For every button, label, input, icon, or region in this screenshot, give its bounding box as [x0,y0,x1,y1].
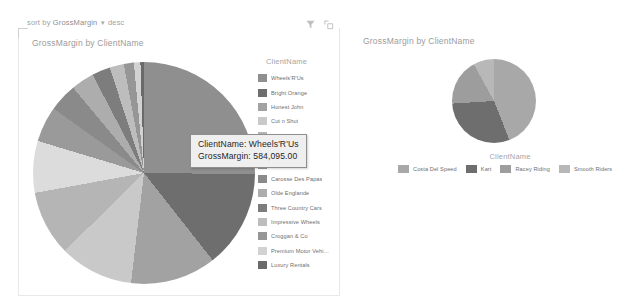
right-pie-chart[interactable] [452,59,536,143]
legend-item-label: Cut n Shut [271,118,298,124]
legend-item-label: Three Country Cars [271,205,322,211]
tooltip-gross-margin: GrossMargin: 584,095.00 [198,151,299,163]
legend-item-label: Bright Orange [271,90,307,96]
legend-color-swatch [258,74,267,82]
left-pie-chart[interactable] [33,62,255,284]
legend-item-label: Racey Riding [515,166,549,172]
legend-item-label: Olde Englande [271,190,309,196]
legend-item-label: Croggan & Co [271,233,308,239]
legend-item[interactable]: Kart [466,165,492,173]
right-chart-legend[interactable]: ClientName Costa Del SpeedKartRacey Ridi… [398,152,622,173]
filter-icon[interactable] [305,16,316,27]
legend-item[interactable]: Olde Englande [258,186,330,200]
legend-item[interactable]: Luxury Rentals [258,258,330,272]
legend-item-label: Wheels'R'Us [271,75,304,81]
focus-mode-icon[interactable] [323,16,334,27]
legend-color-swatch [258,232,267,240]
sort-field-name[interactable]: GrossMargin [53,18,98,27]
legend-item-label: Smooth Riders [574,166,612,172]
legend-color-swatch [398,165,409,173]
left-chart-panel-corner [18,28,28,38]
sort-by-label: sort by [27,18,51,27]
legend-color-swatch [258,247,267,255]
legend-color-swatch [258,189,267,197]
legend-color-swatch [258,103,267,111]
sort-direction-arrow-icon[interactable]: ▾ [100,19,106,26]
right-legend-title: ClientName [398,152,622,161]
legend-color-swatch [258,175,267,183]
legend-item[interactable]: Honest John [258,100,330,114]
legend-color-swatch [500,165,511,173]
sort-direction-label[interactable]: desc [108,18,124,27]
legend-item[interactable]: Three Country Cars [258,201,330,215]
chart-tooltip: ClientName: Wheels'R'Us GrossMargin: 584… [190,134,307,168]
legend-color-swatch [258,204,267,212]
legend-item[interactable]: Croggan & Co [258,229,330,243]
legend-color-swatch [258,117,267,125]
left-legend-title: ClientName [266,57,330,66]
legend-item[interactable]: Racey Riding [500,165,549,173]
legend-item[interactable]: Wheels'R'Us [258,71,330,85]
legend-item[interactable]: Bright Orange [258,85,330,99]
legend-item-label: Kart [481,166,492,172]
legend-color-swatch [258,261,267,269]
legend-item[interactable]: Carosse Des Papas [258,172,330,186]
legend-item-label: Luxury Rentals [271,262,310,268]
tooltip-client-name: ClientName: Wheels'R'Us [198,139,299,151]
legend-item-label: Carosse Des Papas [271,176,322,182]
sort-bar[interactable]: sort by GrossMargin ▾ desc [27,18,124,27]
legend-color-swatch [258,218,267,226]
legend-item[interactable]: Premium Motor Vehi… [258,244,330,258]
legend-item-label: Honest John [271,104,304,110]
legend-item-label: Impressive Wheels [271,219,320,225]
left-chart-title: GrossMargin by ClientName [32,38,144,48]
visual-toolbar[interactable] [305,16,334,27]
legend-color-swatch [466,165,477,173]
legend-item[interactable]: Costa Del Speed [398,165,457,173]
legend-item[interactable]: Smooth Riders [559,165,612,173]
legend-item[interactable]: Cut n Shut [258,114,330,128]
legend-item[interactable]: Impressive Wheels [258,215,330,229]
legend-item-label: Costa Del Speed [413,166,457,172]
legend-color-swatch [258,89,267,97]
legend-color-swatch [559,165,570,173]
right-chart-title: GrossMargin by ClientName [363,36,475,46]
legend-item-label: Premium Motor Vehi… [271,248,329,254]
